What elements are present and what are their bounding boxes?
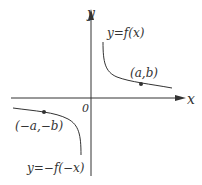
graph-diagram: y x 0 y=f(x) (a,b) (−a,−b) y=−f(−x): [0, 0, 202, 185]
x-axis-arrow-icon: [175, 95, 186, 101]
origin-label: 0: [82, 102, 89, 115]
y-axis-label: y: [86, 5, 96, 21]
x-axis-label: x: [187, 91, 195, 107]
curve-f-label: y=f(x): [106, 26, 145, 40]
point-a-b: [139, 82, 143, 86]
curve-f: [103, 42, 172, 88]
point-neg-a-neg-b: [42, 110, 46, 114]
curve-neg-f-neg-label: y=−f(−x): [26, 161, 85, 175]
point-a-b-label: (a,b): [130, 66, 158, 80]
point-neg-a-neg-b-label: (−a,−b): [15, 119, 63, 133]
